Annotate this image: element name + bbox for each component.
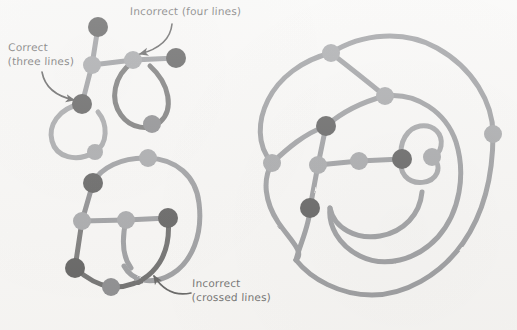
node-inner-top-gray	[376, 87, 394, 105]
node-left-gray	[263, 154, 281, 172]
node-correct-black	[72, 94, 92, 114]
node-upper-black	[83, 173, 103, 193]
arrow-to-correct-node	[42, 72, 74, 100]
spiral-inner-loop	[330, 192, 422, 237]
node-lower-black	[65, 258, 85, 278]
node-top-black	[88, 17, 108, 37]
label-crossed-line2: (crossed lines)	[192, 290, 272, 304]
arrow-to-four-line-node	[140, 24, 172, 54]
node-outer-top-gray	[322, 44, 340, 62]
label-four-line1: Incorrect (four lines)	[130, 4, 242, 18]
label-correct-line1: Correct	[8, 40, 75, 54]
node-left-loop-gray	[87, 144, 103, 160]
node-right-loop-dark	[143, 115, 161, 133]
node-top-gray	[139, 149, 157, 167]
node-upper-black	[316, 116, 336, 136]
diagram-page: Correct (three lines) Incorrect (four li…	[0, 0, 517, 330]
label-correct-three-lines: Correct (three lines)	[8, 40, 75, 68]
loop-right	[115, 62, 169, 127]
node-right-black	[158, 208, 178, 228]
label-incorrect-four-lines: Incorrect (four lines)	[130, 4, 242, 18]
spiral-middle-right	[330, 95, 461, 261]
node-lower-black	[300, 198, 320, 218]
node-mid-gray	[117, 211, 135, 229]
node-bottom-dark	[102, 278, 120, 296]
spiral-middle-top	[331, 53, 385, 96]
node-far-right-gray	[484, 125, 502, 143]
label-correct-line2: (three lines)	[8, 54, 75, 68]
node-mid-left-gray	[73, 212, 91, 230]
diagram-bottom-left	[65, 149, 200, 296]
node-center-left-gray	[309, 156, 327, 174]
spiral-middle	[266, 163, 299, 260]
node-junction-three	[83, 56, 101, 74]
diagram-right	[260, 36, 502, 295]
node-small-loop-gray	[423, 148, 441, 166]
label-incorrect-crossed-lines: Incorrect (crossed lines)	[192, 276, 272, 304]
node-center-black	[392, 149, 412, 169]
node-center-gray	[350, 152, 368, 170]
node-right-black	[166, 48, 186, 68]
label-crossed-line1: Incorrect	[192, 276, 272, 290]
